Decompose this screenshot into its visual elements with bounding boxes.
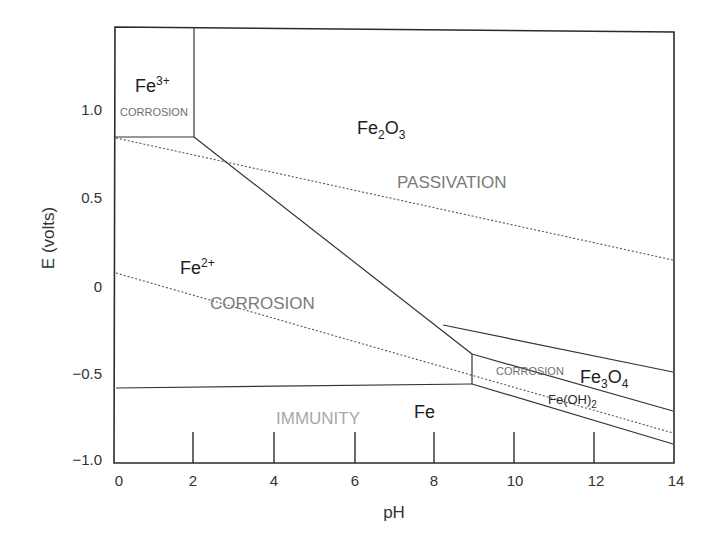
label-fe2o3: Fe2O3 [357, 118, 406, 142]
x-tick-label: 2 [189, 472, 197, 489]
boundary-immunity [116, 384, 472, 388]
y-tick-label: 1.0 [81, 101, 102, 118]
label-fe2: Fe2+ [180, 256, 215, 278]
x-tick-label: 14 [668, 472, 685, 489]
y-axis-title: E (volts) [39, 207, 58, 269]
label-fe3-corrosion: CORROSION [120, 106, 188, 118]
x-tick-label: 10 [507, 472, 524, 489]
x-tick-label: 8 [430, 472, 438, 489]
hydrogen-line [116, 273, 673, 433]
label-immunity: IMMUNITY [276, 409, 360, 428]
y-tick-label: 0 [94, 278, 102, 295]
label-fe3: Fe3+ [135, 74, 170, 96]
x-tick-label: 12 [588, 472, 605, 489]
label-fe3o4: Fe3O4 [580, 367, 629, 391]
x-tick-label: 0 [115, 472, 123, 489]
pourbaix-diagram: 0 2 4 6 8 10 12 14 1.0 0.5 0 −0.5 −1.0 p… [0, 0, 712, 541]
x-axis-ticks [193, 432, 594, 463]
x-tick-label: 6 [351, 472, 359, 489]
oxygen-line [116, 138, 673, 260]
x-tick-labels: 0 2 4 6 8 10 12 14 [115, 472, 685, 489]
y-tick-labels: 1.0 0.5 0 −0.5 −1.0 [72, 101, 102, 468]
label-passivation: PASSIVATION [397, 173, 507, 192]
y-tick-label: −0.5 [72, 365, 102, 382]
boundary-fe2-fe2o3 [194, 137, 472, 354]
x-axis-title: pH [383, 503, 405, 522]
y-tick-label: −1.0 [72, 451, 102, 468]
label-corrosion-main: CORROSION [210, 294, 315, 313]
y-tick-label: 0.5 [81, 189, 102, 206]
x-tick-label: 4 [270, 472, 278, 489]
label-fe: Fe [414, 402, 435, 422]
label-corrosion-small: CORROSION [496, 365, 564, 377]
label-feoh2: Fe(OH)2 [548, 392, 597, 410]
